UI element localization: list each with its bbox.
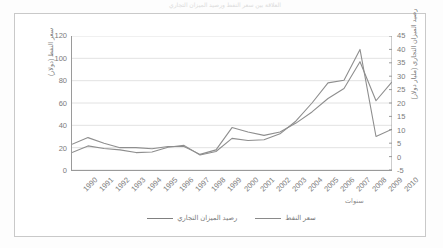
x-axis-tick: 2004: [307, 176, 324, 193]
legend-item[interactable]: رصيد الميزان التجاري: [147, 214, 237, 222]
x-axis-tick: 2006: [339, 176, 356, 193]
x-axis-tick: 2005: [323, 176, 340, 193]
legend-line-swatch: [147, 218, 173, 219]
x-axis-tick: 2001: [258, 176, 275, 193]
right-axis-tick: 30: [397, 73, 423, 81]
x-axis-tick: 2003: [291, 176, 308, 193]
left-axis-tick: 60: [41, 100, 67, 108]
x-axis-tick: 1999: [226, 176, 243, 193]
right-axis-tick: 5: [397, 140, 423, 148]
x-axis-tick: 2002: [274, 176, 291, 193]
x-axis-title: سنوات: [345, 197, 364, 205]
legend-label: سعر النفط: [285, 214, 316, 222]
legend-line-swatch: [255, 218, 281, 219]
x-axis-tick: 1992: [114, 176, 131, 193]
left-axis-tick: 100: [41, 55, 67, 63]
series-line: [72, 62, 392, 155]
x-axis-tick: 2010: [403, 176, 420, 193]
x-axis-tick: 2009: [387, 176, 404, 193]
left-axis-tick: 40: [41, 122, 67, 130]
x-axis-tick: 1990: [82, 176, 99, 193]
chart-legend: رصيد الميزان التجاريسعر النفط: [71, 210, 392, 226]
data-lines: [72, 36, 392, 170]
x-axis-tick: 1995: [162, 176, 179, 193]
x-axis-tick: 1991: [98, 176, 115, 193]
right-axis-tick: -5: [397, 167, 423, 175]
chart-title: العلاقة بين سعر النفط ورصيد الميزان التج…: [70, 0, 380, 9]
legend-item[interactable]: سعر النفط: [255, 214, 316, 222]
right-axis-tick: 40: [397, 46, 423, 54]
x-axis-tick: 1998: [210, 176, 227, 193]
series-line: [72, 49, 392, 155]
right-axis-tick: 15: [397, 113, 423, 121]
x-axis-tick: 1996: [178, 176, 195, 193]
left-axis-tick: 80: [41, 77, 67, 85]
right-axis-tick: 20: [397, 100, 423, 108]
legend-label: رصيد الميزان التجاري: [177, 214, 237, 222]
right-axis-tick: 0: [397, 154, 423, 162]
x-axis-tick: 1994: [146, 176, 163, 193]
chart-frame: سعر النفط (دولار) رصيد الميزان التجاري (…: [14, 13, 426, 237]
x-axis-tick: 1993: [130, 176, 147, 193]
x-axis-tick: 2008: [371, 176, 388, 193]
left-axis-tick: 120: [41, 32, 67, 40]
right-axis-tick: 25: [397, 86, 423, 94]
plot-area: 020406080100120-505101520253035404519901…: [71, 36, 392, 171]
chart-screenshot: العلاقة بين سعر النفط ورصيد الميزان التج…: [0, 0, 443, 248]
right-axis-tick: 10: [397, 127, 423, 135]
x-axis-tick: 1997: [194, 176, 211, 193]
right-axis-tick: 35: [397, 59, 423, 67]
right-axis-tick: 45: [397, 32, 423, 40]
x-axis-tick: 2007: [355, 176, 372, 193]
x-axis-tick: 2000: [242, 176, 259, 193]
left-axis-tick: 0: [41, 167, 67, 175]
left-axis-tick: 20: [41, 145, 67, 153]
